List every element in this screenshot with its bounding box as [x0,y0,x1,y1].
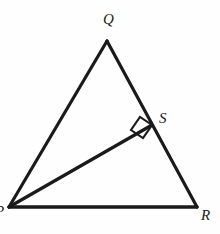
vertex-label-r: R [201,208,210,223]
vertex-label-q: Q [103,12,114,27]
vertex-label-p: P [0,204,4,219]
vertex-label-s: S [159,111,167,126]
triangle-diagram-svg [0,0,220,234]
segment-pq [9,41,107,207]
geometry-figure: Q S R P [0,0,220,234]
segment-ps [9,125,152,207]
